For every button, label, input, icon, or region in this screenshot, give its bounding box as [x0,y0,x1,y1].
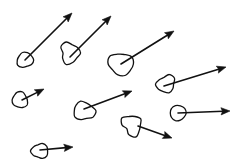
particle-8 [121,116,172,138]
arrow-shaft [25,18,67,60]
arrow-shaft [121,35,168,64]
arrow-shaft [138,126,165,136]
particle-5 [12,89,44,108]
particle-blob [30,143,47,158]
arrowhead-icon [165,31,175,39]
arrow-shaft [84,93,125,109]
particle-2 [61,16,111,65]
particle-3 [108,31,174,76]
arrowhead-icon [221,108,230,115]
particle-blob [108,54,134,76]
particle-9 [30,143,73,158]
vector-field-diagram [0,0,236,168]
diagram-canvas [0,0,236,168]
arrow-shaft [40,148,66,150]
particle-blob [12,92,28,108]
arrow-shaft [164,69,219,86]
arrow-shaft [70,21,106,57]
particle-4 [155,66,226,93]
arrow-shaft [178,111,223,113]
particle-6 [74,91,132,120]
particle-blob [74,101,96,120]
particle-7 [170,105,230,120]
particle-1 [17,13,72,67]
particle-blob [61,42,81,65]
